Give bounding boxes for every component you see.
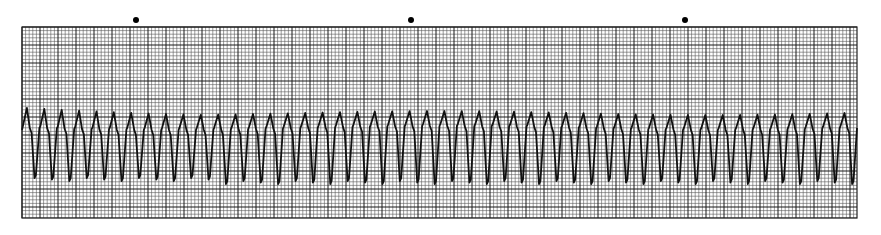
time-marker-dot [133,17,139,23]
ecg-strip [0,0,881,235]
ecg-grid [22,27,857,218]
time-marker-dot [408,17,414,23]
time-markers [133,17,688,23]
time-marker-dot [682,17,688,23]
